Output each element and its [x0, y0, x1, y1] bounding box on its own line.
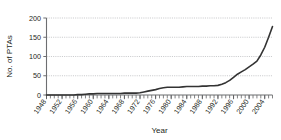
y-tick-label-100: 100 — [29, 52, 41, 61]
chart-figure: 050100150200 194819521956196019641968197… — [0, 0, 281, 140]
line-chart-canvas: 050100150200 194819521956196019641968197… — [0, 0, 281, 140]
x-axis-title: Year — [151, 126, 168, 135]
y-tick-label-200: 200 — [29, 14, 41, 23]
y-axis-title: No. of PTAs — [5, 35, 14, 78]
y-tick-label-50: 50 — [33, 71, 41, 80]
chart-background — [0, 0, 281, 140]
y-tick-label-150: 150 — [29, 33, 41, 42]
